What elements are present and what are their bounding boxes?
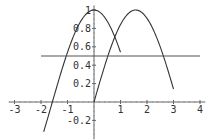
y-tick-label: 0.2 bbox=[73, 78, 91, 89]
x-tick-label: 1 bbox=[117, 104, 123, 115]
y-tick-label: 0.4 bbox=[73, 60, 91, 71]
x-tick-label: -1 bbox=[61, 104, 73, 115]
x-tick-label: -3 bbox=[8, 104, 20, 115]
x-tick-label: -2 bbox=[35, 104, 47, 115]
tick-marks bbox=[9, 10, 200, 139]
function-plot: -3-2-1123410.80.60.40.2-0.2 bbox=[0, 0, 212, 140]
x-tick-label: 4 bbox=[197, 104, 203, 115]
y-tick-label: 0.6 bbox=[73, 41, 91, 52]
x-tick-label: 2 bbox=[144, 104, 150, 115]
y-tick-label: -0.2 bbox=[67, 115, 91, 126]
axes bbox=[9, 5, 205, 138]
x-tick-label: 3 bbox=[170, 104, 176, 115]
tick-labels: -3-2-1123410.80.60.40.2-0.2 bbox=[8, 5, 203, 126]
